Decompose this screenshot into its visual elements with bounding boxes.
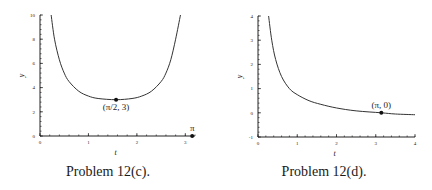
y-tick-label: 3 bbox=[251, 38, 254, 43]
point-annotation: π bbox=[190, 123, 195, 133]
chart-caption: Problem 12(d). bbox=[216, 164, 432, 180]
point-annotation: (π, 0) bbox=[372, 100, 392, 110]
point-annotation: (π/2, 3) bbox=[103, 102, 130, 112]
chart-12d: 01234-101234ty(π, 0) bbox=[216, 0, 432, 190]
chart-12c: 01230246810ty(π/2, 3)π bbox=[0, 0, 216, 190]
y-tick-label: 6 bbox=[33, 61, 36, 66]
chart-panel-12d: 01234-101234ty(π, 0) Problem 12(d). bbox=[216, 0, 432, 190]
x-tick-label: 3 bbox=[184, 140, 187, 145]
x-axis-label: t bbox=[114, 148, 117, 157]
x-tick-label: 1 bbox=[296, 141, 299, 146]
marked-point bbox=[379, 111, 383, 115]
marked-point bbox=[190, 134, 194, 138]
x-tick-label: 0 bbox=[39, 140, 42, 145]
x-tick-label: 4 bbox=[414, 141, 417, 146]
y-axis-label: y bbox=[235, 74, 244, 79]
y-tick-label: 4 bbox=[251, 14, 254, 19]
y-axis-label: y bbox=[17, 73, 26, 78]
y-tick-label: 2 bbox=[251, 62, 254, 67]
solution-curve bbox=[269, 16, 415, 115]
y-tick-label: -1 bbox=[249, 135, 254, 140]
y-tick-label: 2 bbox=[33, 110, 36, 115]
x-tick-label: 0 bbox=[257, 141, 260, 146]
x-tick-label: 1 bbox=[87, 140, 90, 145]
x-axis-label: t bbox=[333, 149, 336, 158]
y-tick-label: 4 bbox=[33, 85, 36, 90]
y-tick-label: 10 bbox=[30, 13, 36, 18]
x-tick-label: 2 bbox=[335, 141, 338, 146]
y-tick-label: 0 bbox=[251, 111, 254, 116]
x-tick-label: 3 bbox=[375, 141, 378, 146]
x-tick-label: 2 bbox=[136, 140, 139, 145]
solution-curve bbox=[51, 15, 180, 100]
y-tick-label: 0 bbox=[33, 134, 36, 139]
chart-panel-12c: 01230246810ty(π/2, 3)π Problem 12(c). bbox=[0, 0, 216, 190]
y-tick-label: 1 bbox=[251, 86, 254, 91]
chart-caption: Problem 12(c). bbox=[0, 164, 216, 180]
y-tick-label: 8 bbox=[33, 37, 36, 42]
